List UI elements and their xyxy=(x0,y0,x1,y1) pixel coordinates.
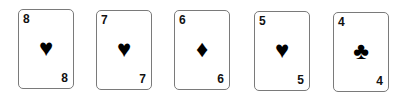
rank-label-bottom: 5 xyxy=(297,73,304,87)
card-4-clubs[interactable]: 4 ♣ 4 xyxy=(333,12,389,92)
card-5-hearts[interactable]: 5 ♥ 5 xyxy=(254,11,310,91)
rank-label-top: 5 xyxy=(259,14,266,28)
heart-icon: ♥ xyxy=(97,35,151,63)
card-6-diamonds[interactable]: 6 ♦ 6 xyxy=(174,10,230,90)
rank-label-bottom: 7 xyxy=(139,72,146,86)
club-icon: ♣ xyxy=(334,37,388,65)
rank-label-top: 6 xyxy=(179,13,186,27)
rank-label-top: 7 xyxy=(101,13,108,27)
card-8-hearts[interactable]: 8 ♥ 8 xyxy=(18,9,74,89)
diamond-icon: ♦ xyxy=(175,35,229,63)
heart-icon: ♥ xyxy=(19,34,73,62)
card-7-hearts[interactable]: 7 ♥ 7 xyxy=(96,10,152,90)
rank-label-bottom: 8 xyxy=(61,71,68,85)
rank-label-bottom: 6 xyxy=(217,72,224,86)
rank-label-top: 8 xyxy=(23,12,30,26)
heart-icon: ♥ xyxy=(255,36,309,64)
rank-label-top: 4 xyxy=(338,15,345,29)
rank-label-bottom: 4 xyxy=(376,74,383,88)
